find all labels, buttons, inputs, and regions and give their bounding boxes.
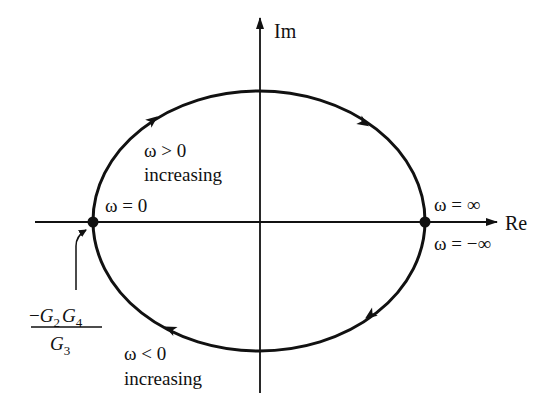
re-axis-label: Re xyxy=(505,212,527,234)
nyquist-diagram: Im Re ω = 0 ω = ∞ ω = −∞ ω > 0 increasin… xyxy=(0,0,555,411)
label-increasing-positive: increasing xyxy=(144,164,223,185)
im-axis-label: Im xyxy=(274,20,297,42)
point-omega-infinity xyxy=(420,217,431,228)
fraction-numerator: −G2G4 xyxy=(29,305,83,330)
diagram-svg: Im Re ω = 0 ω = ∞ ω = −∞ ω > 0 increasin… xyxy=(0,0,555,411)
label-omega-negative: ω < 0 xyxy=(124,343,166,364)
label-omega-neg-infinity: ω = −∞ xyxy=(434,233,491,254)
point-omega-zero xyxy=(88,217,99,228)
label-omega-infinity: ω = ∞ xyxy=(434,194,480,215)
pointer-arrow xyxy=(76,230,86,290)
fraction-label: −G2G4 G3 xyxy=(29,305,102,358)
fraction-denominator: G3 xyxy=(50,333,70,358)
nyquist-contour xyxy=(93,91,425,351)
label-increasing-negative: increasing xyxy=(124,368,203,389)
label-omega-zero: ω = 0 xyxy=(105,195,147,216)
label-omega-positive: ω > 0 xyxy=(144,140,186,161)
